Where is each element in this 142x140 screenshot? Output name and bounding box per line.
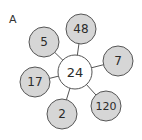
satellite-value: 17 xyxy=(27,75,42,89)
center-node: 24 xyxy=(58,55,92,89)
satellite-node: 5 xyxy=(29,27,59,57)
satellite-value: 5 xyxy=(40,35,48,49)
satellite-node: 17 xyxy=(20,67,50,97)
satellite-node: 48 xyxy=(66,14,96,44)
satellite-value: 48 xyxy=(73,22,88,36)
satellite-node: 7 xyxy=(103,46,133,76)
satellite-value: 2 xyxy=(58,107,66,121)
satellite-value: 7 xyxy=(114,54,122,68)
satellite-node: 2 xyxy=(47,99,77,129)
number-web-diagram: A 485717120224 xyxy=(0,0,142,140)
center-value: 24 xyxy=(67,65,84,80)
satellite-value: 120 xyxy=(96,100,117,113)
satellite-node: 120 xyxy=(91,91,121,121)
panel-label: A xyxy=(9,13,17,26)
diagram-canvas: 485717120224 xyxy=(0,0,142,140)
